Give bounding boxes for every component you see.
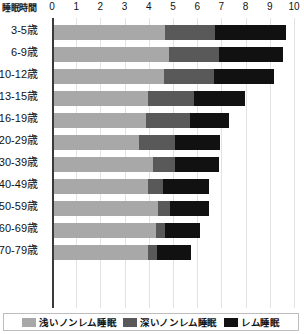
bar-segment xyxy=(54,91,148,106)
bar-segment xyxy=(54,113,146,128)
category-label: 20-29歳 xyxy=(0,132,38,148)
bar-segment xyxy=(146,113,190,128)
bar-segment xyxy=(175,157,219,172)
x-tick-label: 1 xyxy=(73,1,79,12)
bar-segment xyxy=(153,157,175,172)
legend-label: 浅いノンレム睡眠 xyxy=(39,315,116,329)
x-tick-label: 3 xyxy=(122,1,128,12)
chart-legend: 浅いノンレム睡眠深いノンレム睡眠レム睡眠 xyxy=(3,313,299,331)
stacked-bar xyxy=(54,223,200,238)
x-tick-label: 2 xyxy=(98,1,104,12)
x-axis-title: 睡眠時間 xyxy=(2,1,36,14)
category-label: 30-39歳 xyxy=(0,154,38,170)
sleep-stages-stacked-bar-chart: 睡眠時間 012345678910 3-5歳6-9歳10-12歳13-15歳16… xyxy=(0,0,304,334)
category-label: 60-69歳 xyxy=(0,220,38,236)
chart-row: 16-19歳 xyxy=(52,110,294,132)
bar-segment xyxy=(54,135,139,150)
stacked-bar xyxy=(54,245,191,260)
bar-segment xyxy=(148,91,194,106)
bar-segment xyxy=(139,135,175,150)
chart-row: 3-5歳 xyxy=(52,22,294,44)
stacked-bar xyxy=(54,179,209,194)
x-tick-label: 5 xyxy=(170,1,176,12)
chart-row: 10-12歳 xyxy=(52,66,294,88)
bar-segment xyxy=(215,25,286,40)
stacked-bar xyxy=(54,47,283,62)
bar-segment xyxy=(54,179,148,194)
x-tick-label: 9 xyxy=(267,1,273,12)
chart-row: 50-59歳 xyxy=(52,198,294,220)
stacked-bar xyxy=(54,91,245,106)
legend-color-swatch xyxy=(123,318,137,327)
bar-segment xyxy=(54,223,156,238)
legend-color-swatch xyxy=(224,318,238,327)
legend-item: 深いノンレム睡眠 xyxy=(123,315,217,329)
category-label: 6-9歳 xyxy=(0,44,38,60)
chart-row: 30-39歳 xyxy=(52,154,294,176)
chart-row: 60-69歳 xyxy=(52,220,294,242)
gridline xyxy=(294,18,295,308)
category-label: 10-12歳 xyxy=(0,66,38,82)
stacked-bar xyxy=(54,69,274,84)
x-tick-label: 8 xyxy=(243,1,249,12)
chart-row: 20-29歳 xyxy=(52,132,294,154)
bar-segment xyxy=(164,69,214,84)
legend-label: レム睡眠 xyxy=(241,315,279,329)
bar-segment xyxy=(54,157,153,172)
category-label: 16-19歳 xyxy=(0,110,38,126)
bar-segment xyxy=(54,245,148,260)
stacked-bar xyxy=(54,25,286,40)
bar-segment xyxy=(175,135,220,150)
bar-segment xyxy=(165,25,215,40)
bar-segment xyxy=(194,91,245,106)
bar-segment xyxy=(148,179,163,194)
bar-segment xyxy=(165,223,200,238)
category-label: 40-49歳 xyxy=(0,176,38,192)
stacked-bar xyxy=(54,157,219,172)
category-label: 13-15歳 xyxy=(0,88,38,104)
chart-row: 13-15歳 xyxy=(52,88,294,110)
stacked-bar xyxy=(54,201,209,216)
category-label: 50-59歳 xyxy=(0,198,38,214)
bar-segment xyxy=(157,245,191,260)
chart-row: 6-9歳 xyxy=(52,44,294,66)
bar-segment xyxy=(54,25,165,40)
bar-segment xyxy=(54,201,158,216)
bar-segment xyxy=(169,47,219,62)
stacked-bar xyxy=(54,113,229,128)
category-label: 3-5歳 xyxy=(0,22,38,38)
bar-segment xyxy=(54,47,169,62)
x-tick-label: 4 xyxy=(146,1,152,12)
x-tick-label: 10 xyxy=(288,1,299,12)
x-tick-label: 7 xyxy=(219,1,225,12)
bar-segment xyxy=(214,69,275,84)
legend-color-swatch xyxy=(22,318,36,327)
bar-segment xyxy=(170,201,209,216)
stacked-bar xyxy=(54,135,220,150)
bar-segment xyxy=(148,245,156,260)
bar-segment xyxy=(163,179,209,194)
x-tick-label: 6 xyxy=(194,1,200,12)
bar-segment xyxy=(219,47,283,62)
chart-row: 70-79歳 xyxy=(52,242,294,264)
bar-segment xyxy=(158,201,170,216)
chart-row: 40-49歳 xyxy=(52,176,294,198)
bar-segment xyxy=(54,69,164,84)
bar-segment xyxy=(156,223,166,238)
legend-item: レム睡眠 xyxy=(224,315,279,329)
bar-segment xyxy=(190,113,230,128)
x-tick-label: 0 xyxy=(49,1,55,12)
category-label: 70-79歳 xyxy=(0,242,38,258)
legend-label: 深いノンレム睡眠 xyxy=(140,315,217,329)
legend-item: 浅いノンレム睡眠 xyxy=(22,315,116,329)
x-axis-tick-labels: 012345678910 xyxy=(52,1,294,17)
plot-area: 3-5歳6-9歳10-12歳13-15歳16-19歳20-29歳30-39歳40… xyxy=(52,18,294,308)
